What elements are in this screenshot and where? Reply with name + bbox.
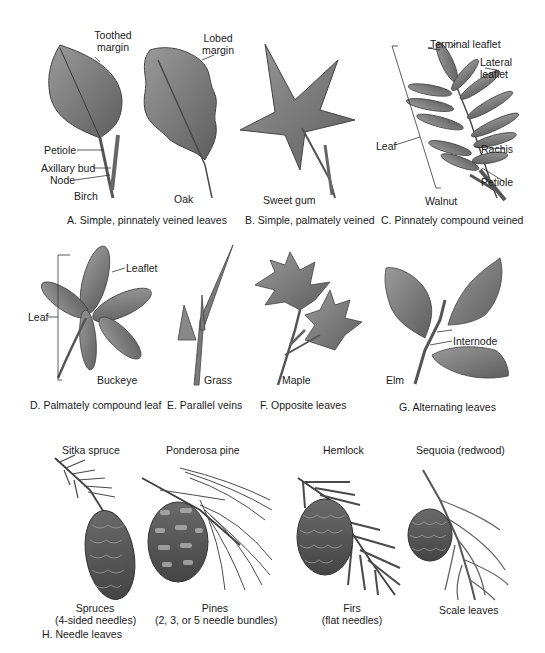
pines-detail: (2, 3, or 5 needle bundles) xyxy=(155,614,275,626)
pine-branch xyxy=(142,468,272,590)
grass-name: Grass xyxy=(204,374,232,386)
maple-name: Maple xyxy=(282,374,311,386)
oak-leaf xyxy=(144,48,216,198)
leaf-label-c: Leaf xyxy=(376,140,396,152)
sitka-spruce-name: Sitka spruce xyxy=(62,444,120,456)
caption-g: G. Alternating leaves xyxy=(399,401,496,413)
petiole-label: Petiole xyxy=(44,144,76,156)
caption-h: H. Needle leaves xyxy=(42,628,122,640)
lateral-leaflet-label: Lateral leaflet xyxy=(480,56,512,80)
leaf-illustrations xyxy=(0,0,545,653)
elm-name: Elm xyxy=(386,374,404,386)
toothed-margin-label: Toothed margin xyxy=(88,29,138,53)
lobed-margin-line2: margin xyxy=(198,44,238,56)
birch-name: Birch xyxy=(74,190,98,202)
internode-label: Internode xyxy=(453,335,497,347)
spruces-group-name: Spruces xyxy=(55,602,135,614)
node-label: Node xyxy=(50,174,75,186)
sequoia-branch xyxy=(408,470,508,600)
lateral-leaflet-line2: leaflet xyxy=(480,68,512,80)
caption-d: D. Palmately compound leaf xyxy=(30,399,161,411)
sweet-gum-name: Sweet gum xyxy=(263,194,316,206)
pines-group-name: Pines xyxy=(155,602,275,614)
oak-name: Oak xyxy=(174,193,193,205)
firs-detail: (flat needles) xyxy=(312,614,392,626)
scale-leaves-group: Scale leaves xyxy=(439,604,499,616)
firs-group: Firs (flat needles) xyxy=(312,602,392,626)
leaf-label-d: Leaf xyxy=(28,311,48,323)
hemlock-branch xyxy=(297,478,400,595)
caption-a: A. Simple, pinnately veined leaves xyxy=(67,214,227,226)
firs-group-name: Firs xyxy=(312,602,392,614)
elm-alternating-leaves xyxy=(385,258,508,384)
toothed-margin-line1: Toothed xyxy=(88,29,138,41)
walnut-name: Walnut xyxy=(425,195,457,207)
spruces-detail: (4-sided needles) xyxy=(55,614,135,626)
maple-leaves xyxy=(255,252,362,385)
spruce-branch xyxy=(55,455,141,603)
pines-group: Pines (2, 3, or 5 needle bundles) xyxy=(155,602,275,626)
lateral-leaflet-line1: Lateral xyxy=(480,56,512,68)
hemlock-name: Hemlock xyxy=(323,444,364,456)
petiole-label-c: Petiole xyxy=(481,176,513,188)
caption-f: F. Opposite leaves xyxy=(260,399,346,411)
sweet-gum-leaf xyxy=(240,44,355,198)
leaflet-label: Leaflet xyxy=(126,262,158,274)
lobed-margin-label: Lobed margin xyxy=(198,32,238,56)
grass-blades xyxy=(178,245,233,385)
caption-e: E. Parallel veins xyxy=(167,399,242,411)
spruces-group: Spruces (4-sided needles) xyxy=(55,602,135,626)
buckeye-name: Buckeye xyxy=(97,374,137,386)
rachis-label: Rachis xyxy=(481,143,513,155)
caption-b: B. Simple, palmately veined xyxy=(245,214,375,226)
lobed-margin-line1: Lobed xyxy=(198,32,238,44)
axillary-bud-label: Axillary bud xyxy=(41,162,95,174)
caption-c: C. Pinnately compound veined xyxy=(381,214,523,226)
terminal-leaflet-label: Terminal leaflet xyxy=(430,38,501,50)
sequoia-name: Sequoia (redwood) xyxy=(416,444,505,456)
ponderosa-pine-name: Ponderosa pine xyxy=(166,444,240,456)
toothed-margin-line2: margin xyxy=(88,41,138,53)
